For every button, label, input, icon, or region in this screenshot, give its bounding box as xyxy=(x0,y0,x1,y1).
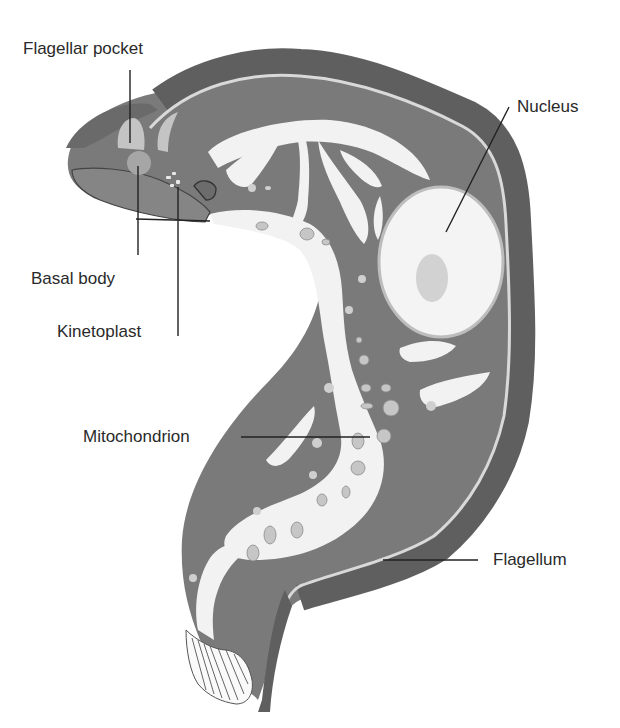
label-flagellar-pocket: Flagellar pocket xyxy=(23,39,143,58)
nucleus xyxy=(379,187,503,337)
label-mitochondrion: Mitochondrion xyxy=(83,427,190,446)
label-kinetoplast: Kinetoplast xyxy=(57,322,141,341)
label-nucleus: Nucleus xyxy=(517,97,578,116)
label-flagellum: Flagellum xyxy=(493,550,567,569)
label-basal-body: Basal body xyxy=(31,269,116,288)
nucleolus xyxy=(416,254,448,302)
basal-body xyxy=(127,151,151,175)
trypanosome-diagram: Flagellar pocket Nucleus Basal body Kine… xyxy=(0,0,620,728)
